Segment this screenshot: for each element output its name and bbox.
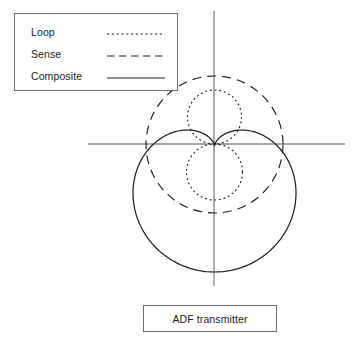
legend-item-composite: Composite — [15, 66, 177, 86]
legend-label-sense: Sense — [31, 48, 61, 60]
caption-text: ADF transmitter — [172, 313, 247, 325]
legend-box: Loop Sense Composite — [14, 13, 178, 91]
legend-swatch-composite-solid — [107, 76, 165, 77]
legend-swatch-loop-dotted — [107, 32, 165, 33]
adf-pattern-figure: Loop Sense Composite — [0, 0, 360, 350]
legend-swatch-sense-dashed — [107, 54, 165, 55]
legend-item-loop: Loop — [15, 22, 177, 42]
legend-label-loop: Loop — [31, 26, 55, 38]
legend-label-composite: Composite — [31, 70, 82, 82]
caption-box: ADF transmitter — [143, 305, 277, 332]
legend-item-sense: Sense — [15, 44, 177, 64]
